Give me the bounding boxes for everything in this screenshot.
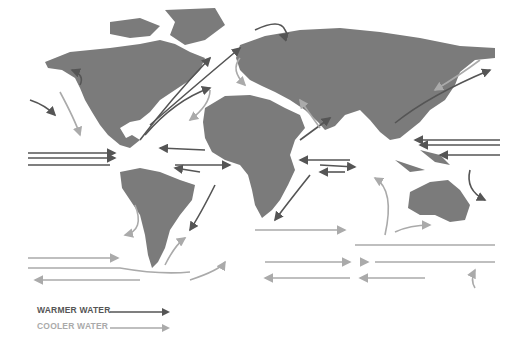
australia [408,180,470,222]
north-america [45,40,205,148]
south-america [120,168,195,268]
arrow-right-icon [110,307,170,317]
world-map [0,0,521,354]
ocean-currents-map: WARMER WATER COOLER WATER [0,0,521,354]
arrow-right-icon [110,323,170,333]
